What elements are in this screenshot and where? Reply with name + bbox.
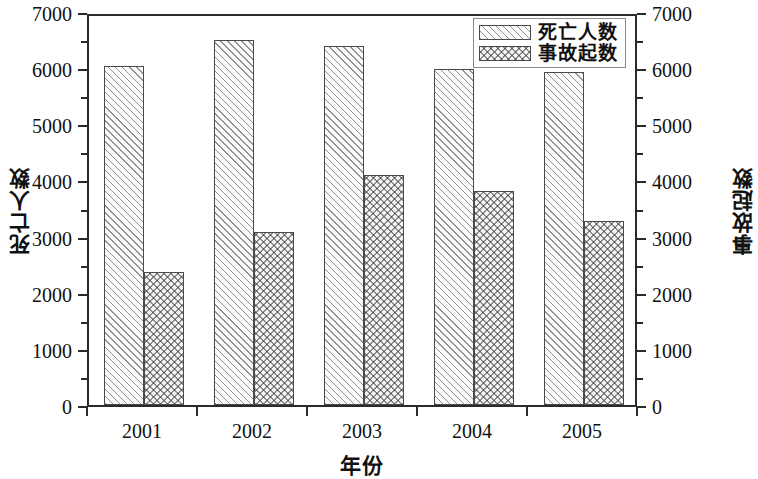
x-tick-major (416, 407, 418, 416)
bar-deaths-2001 (104, 66, 144, 405)
bar-deaths-2004 (434, 69, 474, 405)
x-tick-label: 2005 (562, 421, 602, 441)
y-tick-major (78, 294, 87, 296)
y2-tick-major (637, 125, 646, 127)
y2-axis-title: 事故起数 (729, 167, 758, 255)
y2-tick-major (637, 69, 646, 71)
y2-tick-minor (637, 378, 643, 380)
y2-tick-label: 5000 (652, 116, 732, 136)
x-tick-label: 2001 (122, 421, 162, 441)
y-tick-major (78, 69, 87, 71)
chart-legend: 死亡人数 事故起数 (473, 18, 626, 68)
y-tick-label: 2000 (0, 285, 72, 305)
bar-deaths-2002 (214, 40, 254, 405)
legend-label-accidents: 事故起数 (538, 44, 618, 63)
x-tick-major (526, 407, 528, 416)
y-tick-label: 3000 (0, 229, 72, 249)
y-tick-label: 1000 (0, 341, 72, 361)
bar-deaths-2003 (324, 46, 364, 405)
y2-tick-label: 0 (652, 397, 732, 417)
legend-swatch-deaths-icon (479, 25, 531, 40)
y2-tick-label: 2000 (652, 285, 732, 305)
y2-tick-label: 7000 (652, 4, 732, 24)
y2-tick-major (637, 238, 646, 240)
y2-tick-label: 4000 (652, 172, 732, 192)
legend-label-deaths: 死亡人数 (538, 23, 618, 42)
y-tick-major (78, 13, 87, 15)
legend-swatch-accidents-icon (479, 46, 531, 61)
y-tick-major (78, 181, 87, 183)
y2-tick-minor (637, 97, 643, 99)
y2-tick-major (637, 350, 646, 352)
bar-accidents-2005 (584, 221, 624, 405)
x-tick-label: 2004 (452, 421, 492, 441)
y2-tick-minor (637, 210, 643, 212)
y-tick-major (78, 125, 87, 127)
x-tick-label: 2003 (342, 421, 382, 441)
y2-tick-minor (637, 266, 643, 268)
bar-accidents-2002 (254, 232, 294, 405)
x-axis-title: 年份 (340, 449, 384, 479)
bar-deaths-2005 (544, 72, 584, 405)
legend-item-deaths: 死亡人数 (479, 22, 618, 43)
y2-tick-minor (637, 41, 643, 43)
x-tick-major (86, 407, 88, 416)
x-tick-major (306, 407, 308, 416)
y2-tick-major (637, 13, 646, 15)
x-tick-label: 2002 (232, 421, 272, 441)
x-tick-major (196, 407, 198, 416)
y2-tick-minor (637, 322, 643, 324)
bar-accidents-2001 (144, 272, 184, 405)
y2-tick-major (637, 294, 646, 296)
plot-area (87, 14, 637, 407)
y2-tick-major (637, 181, 646, 183)
y-tick-label: 4000 (0, 172, 72, 192)
x-tick-major (636, 407, 638, 416)
y-tick-label: 5000 (0, 116, 72, 136)
y2-tick-label: 1000 (652, 341, 732, 361)
y2-tick-label: 3000 (652, 229, 732, 249)
bar-accidents-2003 (364, 175, 404, 405)
y-tick-major (78, 238, 87, 240)
y-tick-label: 7000 (0, 4, 72, 24)
legend-item-accidents: 事故起数 (479, 43, 618, 64)
y-tick-label: 6000 (0, 60, 72, 80)
y2-tick-major (637, 406, 646, 408)
y2-tick-label: 6000 (652, 60, 732, 80)
y2-tick-minor (637, 153, 643, 155)
y-tick-label: 0 (0, 397, 72, 417)
bar-accidents-2004 (474, 191, 514, 405)
y-tick-major (78, 350, 87, 352)
